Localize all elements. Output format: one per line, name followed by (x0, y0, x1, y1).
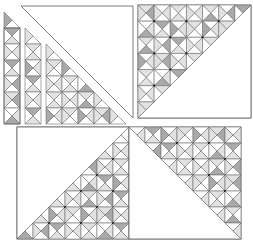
quilt-blocks (4, 5, 251, 239)
vertex-dot (112, 158, 114, 160)
vertex-dot (169, 36, 171, 38)
vertex-dot (185, 52, 187, 54)
vertex-dot (112, 190, 114, 192)
vertex-dot (112, 222, 114, 224)
vertex-dot (153, 52, 155, 54)
vertex-dot (208, 142, 210, 144)
vertex-dot (201, 36, 203, 38)
vertex-dot (64, 206, 66, 208)
vertex-dot (224, 158, 226, 160)
vertex-dot (96, 174, 98, 176)
block-top-right (138, 5, 251, 118)
vertex-dot (218, 20, 220, 22)
block-top-left (4, 6, 133, 124)
vertex-dot (96, 206, 98, 208)
vertex-dot (80, 190, 82, 192)
vertex-dot (224, 190, 226, 192)
vertex-dot (169, 68, 171, 70)
vertex-dot (192, 158, 194, 160)
vertex-dot (153, 20, 155, 22)
vertex-dot (48, 222, 50, 224)
block-bottom-left (17, 127, 129, 239)
vertex-dot (153, 85, 155, 87)
vertex-dot (185, 20, 187, 22)
vertex-dot (80, 222, 82, 224)
block-bottom-right (129, 127, 241, 239)
quilt-diagram (0, 0, 253, 248)
vertex-dot (208, 174, 210, 176)
vertex-dot (176, 142, 178, 144)
